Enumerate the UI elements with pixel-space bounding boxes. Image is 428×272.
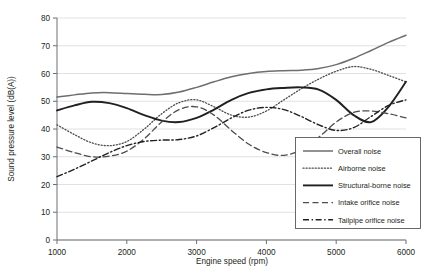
legend-item-label: Tailpipe orifice noise (338, 216, 405, 225)
x-axis-title: Engine speed (rpm) (196, 257, 268, 266)
chart-background (0, 0, 428, 272)
y-tick-label: 70 (41, 42, 51, 51)
y-tick-label: 80 (41, 14, 51, 23)
y-tick-label: 30 (41, 153, 51, 162)
y-tick-label: 60 (41, 70, 51, 79)
legend-item-label: Structural-borne noise (338, 181, 411, 190)
chart-legend: Overall noiseAirborne noiseStructural-bo… (296, 138, 421, 229)
legend-item-label: Overall noise (338, 147, 381, 156)
x-tick-label: 1000 (48, 248, 67, 257)
legend-item-label: Airborne noise (338, 164, 386, 173)
x-tick-label: 2000 (118, 248, 137, 257)
y-tick-label: 40 (41, 125, 51, 134)
y-tick-label: 10 (41, 208, 51, 217)
chart-figure: 01020304050607080 1000200030004000500060… (0, 0, 428, 272)
y-tick-label: 0 (45, 236, 50, 245)
x-tick-label: 5000 (327, 248, 346, 257)
sound-pressure-line-chart: 01020304050607080 1000200030004000500060… (0, 0, 428, 272)
legend-item-label: Intake orifice noise (338, 198, 400, 207)
y-tick-label: 20 (41, 181, 51, 190)
x-tick-label: 3000 (187, 248, 206, 257)
y-axis-title: Sound pressure level (dB(A)) (7, 76, 16, 182)
x-tick-label: 6000 (397, 248, 416, 257)
y-tick-label: 50 (41, 97, 51, 106)
x-tick-label: 4000 (257, 248, 276, 257)
